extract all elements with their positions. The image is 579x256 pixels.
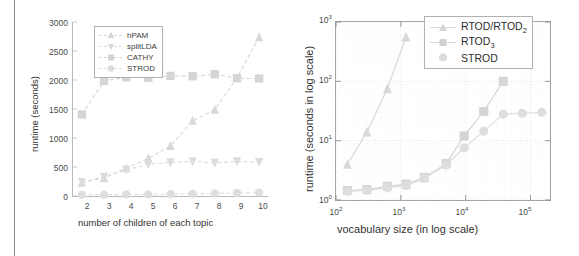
circle-marker — [122, 190, 130, 198]
circle-marker — [420, 174, 429, 183]
square-marker — [233, 74, 241, 82]
triangle-up-marker — [383, 84, 392, 94]
circle-marker — [144, 190, 152, 198]
series-line-rtod-rtod2 — [347, 37, 406, 164]
legend-label-hpam: hPAM — [124, 31, 148, 40]
right-y-tick-1e2: 102 — [306, 74, 332, 84]
square-marker — [188, 72, 196, 80]
triangle-up-marker — [255, 32, 263, 41]
legend-label-strod: STROD — [458, 52, 498, 64]
square-marker — [460, 131, 469, 140]
left-y-tick-3000: 3000 — [30, 19, 68, 28]
legend-item-rtod2[interactable]: RTOD/RTOD2 — [428, 20, 527, 35]
legend-label-rtod2: RTOD/RTOD2 — [458, 20, 527, 35]
triangle-up-marker — [362, 127, 371, 137]
right-legend: RTOD/RTOD2 RTOD3 STROD — [424, 16, 533, 69]
square-marker — [166, 72, 174, 80]
circle-icon — [98, 63, 124, 74]
square-marker — [499, 77, 508, 86]
left-figure-panel: runtime (seconds) 0 500 1000 1500 2000 2… — [22, 0, 290, 256]
circle-marker — [78, 191, 86, 199]
legend-item-rtod3[interactable]: RTOD3 — [428, 35, 527, 50]
left-legend: hPAM splitLDA CATHY STROD — [94, 26, 163, 78]
right-y-tick-1e0: 100 — [306, 194, 332, 204]
legend-label-rtod3: RTOD3 — [458, 35, 495, 50]
series-line-cathy — [82, 74, 259, 114]
triangle-up-icon — [98, 30, 124, 41]
right-figure-panel: runtime (seconds in log scale) 100 101 1… — [292, 0, 579, 256]
circle-marker — [442, 160, 451, 169]
triangle-down-marker — [188, 157, 196, 166]
left-x-tick-5: 5 — [142, 202, 164, 211]
left-y-tick-1000: 1000 — [30, 135, 68, 144]
circle-marker — [166, 190, 174, 198]
circle-marker — [537, 108, 546, 117]
left-x-tick-6: 6 — [164, 202, 186, 211]
square-marker — [255, 74, 263, 82]
legend-item-hpam[interactable]: hPAM — [98, 30, 157, 41]
right-x-axis-title: vocabulary size (in log scale) — [337, 224, 478, 235]
circle-marker — [188, 190, 196, 198]
legend-item-cathy[interactable]: CATHY — [98, 52, 157, 63]
circle-icon — [428, 50, 458, 65]
right-y-tick-1e1: 101 — [306, 134, 332, 144]
triangle-down-icon — [98, 41, 124, 52]
left-x-tick-10: 10 — [252, 202, 274, 211]
page-edge-rule — [14, 0, 15, 256]
circle-marker — [100, 191, 108, 199]
left-x-tick-3: 3 — [98, 202, 120, 211]
square-marker — [479, 107, 488, 116]
circle-marker — [255, 188, 263, 196]
circle-marker — [401, 181, 410, 190]
left-x-axis-title: number of children of each topic — [78, 218, 213, 228]
legend-item-strod[interactable]: STROD — [98, 63, 157, 74]
right-x-tick-1e3: 103 — [388, 206, 410, 216]
legend-label-strod: STROD — [124, 64, 155, 73]
right-y-tick-1e3: 103 — [306, 14, 332, 24]
circle-marker — [362, 186, 371, 195]
circle-marker — [518, 109, 527, 118]
triangle-down-marker — [255, 158, 263, 167]
left-y-tick-2000: 2000 — [30, 77, 68, 86]
circle-marker — [479, 127, 488, 136]
circle-marker — [343, 187, 352, 196]
triangle-up-marker — [343, 159, 352, 169]
triangle-up-marker — [401, 32, 410, 42]
circle-marker — [383, 183, 392, 192]
left-x-tick-7: 7 — [186, 202, 208, 211]
right-y-axis-title: runtime (seconds in log scale) — [304, 46, 315, 192]
right-x-tick-1e4: 104 — [451, 206, 473, 216]
circle-marker — [211, 189, 219, 197]
legend-label-splitlda: splitLDA — [124, 42, 157, 51]
left-x-tick-4: 4 — [120, 202, 142, 211]
right-x-tick-1e5: 105 — [514, 206, 536, 216]
triangle-up-marker — [188, 116, 196, 125]
left-y-tick-2500: 2500 — [30, 48, 68, 57]
legend-item-splitlda[interactable]: splitLDA — [98, 41, 157, 52]
left-x-tick-9: 9 — [230, 202, 252, 211]
legend-label-cathy: CATHY — [124, 53, 154, 62]
triangle-up-icon — [428, 20, 458, 35]
square-marker — [78, 110, 86, 118]
square-marker — [211, 70, 219, 78]
circle-marker — [499, 110, 508, 119]
square-icon — [428, 35, 458, 50]
left-y-tick-0: 0 — [30, 193, 68, 202]
left-x-tick-2: 2 — [76, 202, 98, 211]
series-line-strod — [347, 112, 541, 191]
square-icon — [98, 52, 124, 63]
circle-marker — [233, 189, 241, 197]
right-x-tick-1e2: 102 — [325, 206, 347, 216]
left-x-tick-8: 8 — [208, 202, 230, 211]
left-y-tick-500: 500 — [30, 164, 68, 173]
circle-marker — [460, 143, 469, 152]
left-y-tick-1500: 1500 — [30, 106, 68, 115]
legend-item-strod[interactable]: STROD — [428, 50, 527, 65]
